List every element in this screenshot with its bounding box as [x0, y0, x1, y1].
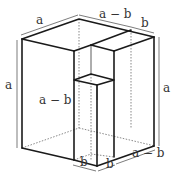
- cube-diagram: a a − b b a a − b a b b a − b: [0, 0, 176, 175]
- label-bottom-left: b: [80, 155, 88, 169]
- label-top-right: b: [141, 16, 149, 30]
- interior-lines: [91, 45, 97, 100]
- label-right-height: a: [163, 81, 170, 95]
- label-bottom-middle: b: [106, 157, 114, 171]
- label-top-middle: a − b: [99, 7, 132, 21]
- label-top-left: a: [36, 13, 43, 27]
- label-left-height: a: [5, 78, 12, 92]
- label-bottom-right: a − b: [132, 146, 165, 160]
- label-inner-height: a − b: [39, 93, 72, 107]
- hidden-edges: [22, 19, 155, 160]
